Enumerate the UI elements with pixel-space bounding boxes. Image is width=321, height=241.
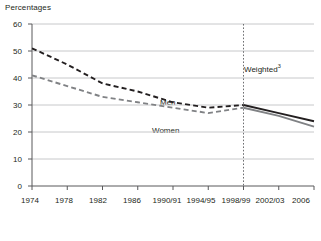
x-tick-marks-group	[32, 186, 314, 190]
y-tick-marks-group	[28, 24, 32, 186]
series-line-women-solid	[244, 108, 315, 127]
chart-container: Percentages 60 50 40 30 20 10 0 1974 197…	[0, 0, 321, 241]
series-line-men-solid	[244, 105, 315, 121]
chart-plot-svg	[0, 0, 321, 241]
gridlines-group	[32, 24, 314, 186]
series-lines-group	[32, 48, 314, 126]
